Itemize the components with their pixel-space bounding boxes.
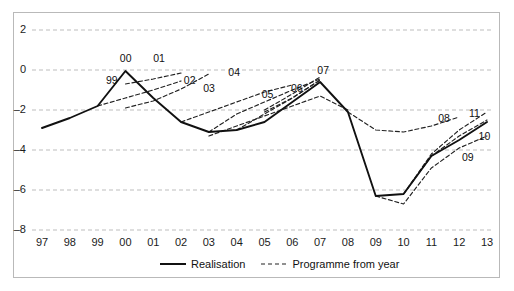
series-annotation-label: 03 [203,83,215,94]
series-annotation-label: 08 [438,113,450,124]
series-annotation-label: 11 [469,108,480,119]
series-annotation-label: 05 [262,89,274,100]
x-tick-label: 98 [59,237,81,248]
y-tick-label: –2 [8,104,26,115]
legend-swatch-dashed [261,260,287,268]
y-tick-label: 2 [8,24,26,35]
chart-legend: Realisation Programme from year [160,258,399,270]
x-tick-label: 00 [114,237,136,248]
x-tick-label: 03 [198,237,220,248]
x-tick-label: 06 [281,237,303,248]
x-tick-label: 02 [170,237,192,248]
y-tick-label: 0 [8,64,26,75]
series-annotation-label: 04 [228,67,240,78]
series-annotation-label: 06 [291,83,303,94]
x-tick-label: 13 [476,237,498,248]
series-annotation-label: 02 [184,75,196,86]
y-tick-label: –6 [8,184,26,195]
legend-item-programme: Programme from year [261,258,399,270]
series-annotation-label: 01 [153,53,165,64]
x-tick-label: 07 [309,237,331,248]
x-tick-label: 97 [31,237,53,248]
x-tick-label: 04 [226,237,248,248]
legend-label-realisation: Realisation [191,258,245,270]
series-annotation-label: 10 [479,131,491,142]
x-tick-label: 11 [420,237,442,248]
legend-swatch-solid [160,260,186,268]
x-tick-label: 99 [87,237,109,248]
x-tick-label: 01 [142,237,164,248]
legend-item-realisation: Realisation [160,258,245,270]
series-annotation-label: 09 [462,152,474,163]
figure-container: 20–2–4–6–8 97989900010203040506070809101… [0,0,514,291]
x-tick-label: 09 [365,237,387,248]
series-annotation-label: 99 [106,75,118,86]
series-annotation-label: 00 [120,53,132,64]
y-tick-label: –4 [8,144,26,155]
x-tick-label: 08 [337,237,359,248]
y-tick-label: –8 [8,224,26,235]
x-tick-label: 10 [393,237,415,248]
legend-label-programme: Programme from year [292,258,399,270]
x-tick-label: 05 [254,237,276,248]
series-annotation-label: 07 [317,65,329,76]
x-tick-label: 12 [448,237,470,248]
